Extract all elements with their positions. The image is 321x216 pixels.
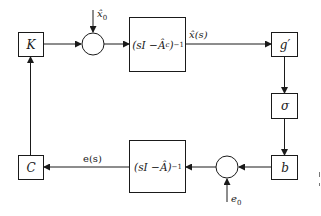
label-observer-top: (sI − Âc)−1 [130,18,186,72]
summing-junction-bottom [216,156,238,178]
signal-e0: e0 [231,194,241,207]
signal-e-s: e(s) [83,154,102,164]
signal-x0-hat: x̂0 [97,9,107,22]
label-K: K [18,32,44,57]
label-C: C [18,155,44,180]
summing-junction-top [82,33,104,55]
label-observer-bottom: (sI − Â)−1 [130,140,186,193]
signal-x-hat-s: x̂(s) [189,30,208,40]
label-sigma: σ [272,93,298,119]
label-g-prime: g′ [272,32,298,57]
label-b: b [272,155,298,180]
